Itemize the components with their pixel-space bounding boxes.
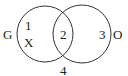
marker-x-label: X	[24, 35, 34, 50]
set-o-label: O	[113, 27, 122, 42]
region-1-label: 1	[25, 18, 32, 33]
venn-diagram: G O 1 X 2 3 4	[0, 0, 128, 76]
region-2-label: 2	[60, 27, 67, 42]
set-g-label: G	[3, 27, 12, 42]
region-3-label: 3	[99, 27, 106, 42]
region-4-label: 4	[60, 63, 67, 76]
